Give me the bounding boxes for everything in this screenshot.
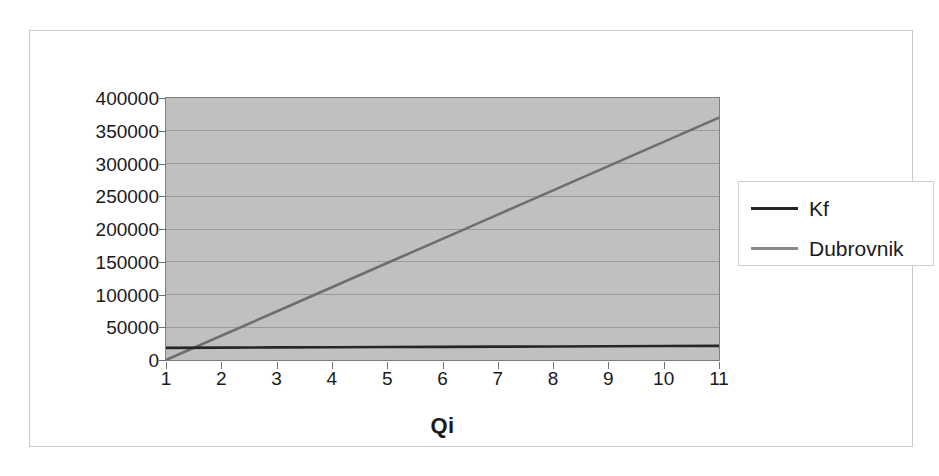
legend-entry[interactable]: Kf [751,194,829,222]
y-tick-label: 400000 [64,89,159,108]
y-tick-mark [159,327,166,328]
x-tick-label: 11 [709,369,729,388]
x-tick-label: 9 [603,369,614,388]
y-tick-label: 200000 [64,220,159,239]
x-tick-mark [719,362,720,369]
legend-entry[interactable]: Dubrovnik [751,234,904,262]
x-tick-mark [332,362,333,369]
series-line-dubrovnik [166,118,719,360]
x-tick-mark [498,362,499,369]
y-tick-label: 300000 [64,154,159,173]
x-tick-mark [443,362,444,369]
legend-label: Dubrovnik [809,238,904,259]
x-tick-mark [277,362,278,369]
x-tick-mark [608,362,609,369]
x-tick-label: 10 [653,369,674,388]
legend-label: Kf [809,198,829,219]
x-tick-mark [221,362,222,369]
y-tick-label: 150000 [64,252,159,271]
legend-color-swatch [751,247,798,250]
y-tick-mark [159,164,166,165]
x-tick-label: 6 [437,369,448,388]
y-tick-mark [159,262,166,263]
x-tick-mark [166,362,167,369]
y-tick-label: 350000 [64,121,159,140]
x-tick-label: 4 [327,369,338,388]
y-axis: 4000003500003000002500002000001500001000… [64,97,159,361]
x-tick-mark [387,362,388,369]
chart-legend: KfDubrovnik [738,181,934,266]
legend-color-swatch [751,207,798,210]
y-tick-label: 50000 [64,318,159,337]
series-line-kf [166,346,719,348]
y-tick-mark [159,229,166,230]
x-axis: 1234567891011 [165,369,720,397]
x-tick-label: 8 [548,369,559,388]
chart-frame: 4000003500003000002500002000001500001000… [29,30,913,447]
x-axis-title: Qi [165,413,720,439]
y-tick-mark [159,196,166,197]
x-tick-label: 2 [216,369,227,388]
y-tick-mark [159,295,166,296]
y-tick-label: 250000 [64,187,159,206]
plot-area [165,97,720,361]
y-tick-mark [159,131,166,132]
y-tick-label: 0 [64,351,159,370]
y-tick-label: 100000 [64,285,159,304]
x-tick-label: 1 [161,369,172,388]
x-tick-label: 5 [382,369,393,388]
x-tick-mark [664,362,665,369]
y-tick-mark [159,360,166,361]
x-tick-label: 3 [271,369,282,388]
plot-series-svg [166,98,719,360]
y-tick-mark [159,98,166,99]
x-tick-mark [553,362,554,369]
x-tick-label: 7 [493,369,504,388]
